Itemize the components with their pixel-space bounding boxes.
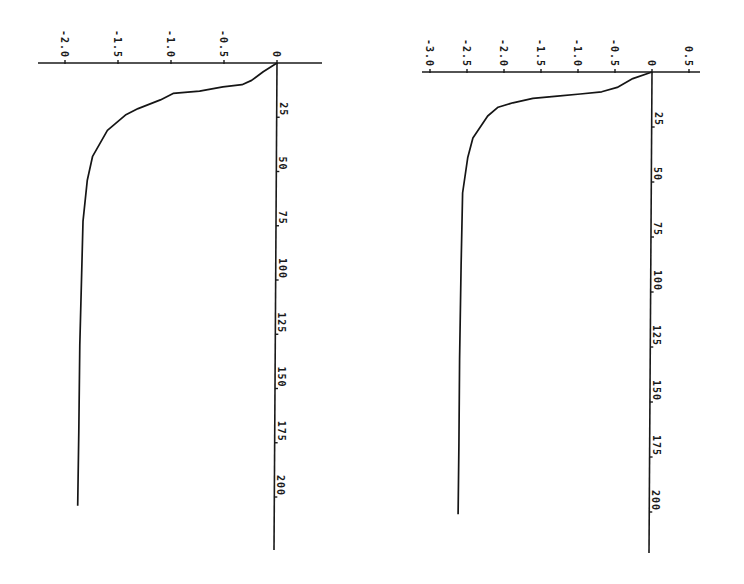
index-axis xyxy=(649,72,652,553)
value-tick-label: -2.0 xyxy=(498,39,509,67)
index-tick-label: 50 xyxy=(652,167,663,181)
index-tick-label: 175 xyxy=(651,435,662,456)
index-tick-label: 150 xyxy=(276,366,287,387)
value-tick-label: -0.5 xyxy=(218,30,229,58)
value-tick-label: -1.0 xyxy=(572,39,583,67)
data-series-line xyxy=(458,72,652,514)
index-tick-label: 200 xyxy=(275,475,286,496)
value-tick-label: -1.0 xyxy=(165,30,176,58)
index-tick-label: 75 xyxy=(277,211,288,225)
index-tick-label: 175 xyxy=(276,421,287,442)
data-series-line xyxy=(78,63,277,506)
index-tick-label: 125 xyxy=(276,312,287,333)
value-tick-label: -2.5 xyxy=(461,39,472,67)
value-tick-label: -1.5 xyxy=(535,39,546,67)
value-tick-label: 0 xyxy=(271,51,282,58)
value-tick-label: 0.5 xyxy=(683,46,694,67)
value-tick-label: -1.5 xyxy=(112,30,123,58)
index-tick-label: 25 xyxy=(278,102,289,116)
chart-canvas: -2.0-1.5-1.0-0.50255075100125150175200 -… xyxy=(0,0,744,584)
index-tick-label: 75 xyxy=(652,222,663,236)
right-chart: -3.0-2.5-2.0-1.5-1.0-0.500.5255075100125… xyxy=(422,39,700,553)
index-tick-label: 25 xyxy=(653,112,664,126)
index-tick-label: 150 xyxy=(651,380,662,401)
index-tick-label: 125 xyxy=(651,325,662,346)
index-tick-label: 100 xyxy=(652,270,663,291)
left-chart: -2.0-1.5-1.0-0.50255075100125150175200 xyxy=(38,30,322,550)
value-tick-label: -3.0 xyxy=(424,39,435,67)
value-tick-label: -2.0 xyxy=(59,30,70,58)
value-tick-label: -0.5 xyxy=(609,39,620,67)
index-tick-label: 100 xyxy=(277,258,288,279)
index-tick-label: 50 xyxy=(277,156,288,170)
value-tick-label: 0 xyxy=(646,60,657,67)
index-tick-label: 200 xyxy=(650,490,661,511)
